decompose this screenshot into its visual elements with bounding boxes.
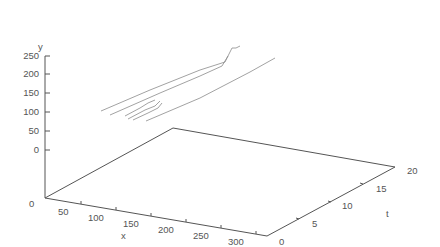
t-axis-label: t: [386, 209, 389, 219]
x-axis-line: [45, 198, 267, 236]
x-tick-label: 300: [228, 237, 244, 247]
x-tick-label: 200: [158, 225, 174, 235]
t-tick-label: 10: [342, 201, 353, 211]
z-tick-label: 50: [9, 126, 39, 136]
t-tick-label: 20: [407, 166, 418, 176]
x-tick-label: 250: [193, 231, 209, 241]
t-tick-label: 5: [312, 219, 317, 229]
x-tick-label: 100: [88, 213, 104, 223]
curve-1: [101, 46, 240, 111]
z-tick-label: 150: [9, 88, 39, 98]
curves: [101, 46, 275, 121]
curve-2: [110, 56, 228, 115]
z-tick-label: 0: [9, 145, 39, 155]
z-tick-label: 200: [9, 69, 39, 79]
t-tick-label: 0: [279, 237, 284, 247]
t-ticks: [296, 183, 363, 219]
x-tick-label: 50: [58, 207, 69, 217]
z-tick-label: 250: [9, 51, 39, 61]
corner-label: 0: [29, 199, 34, 209]
t-tick-label: 15: [376, 184, 387, 194]
curve-4: [146, 58, 275, 121]
back-edge: [173, 128, 395, 167]
z-tick-label: 100: [9, 107, 39, 117]
x-axis-label: x: [121, 231, 126, 241]
z-ticks: [45, 56, 50, 150]
left-edge: [45, 128, 173, 198]
x-tick-label: 150: [123, 219, 139, 229]
curve-3: [125, 100, 162, 120]
